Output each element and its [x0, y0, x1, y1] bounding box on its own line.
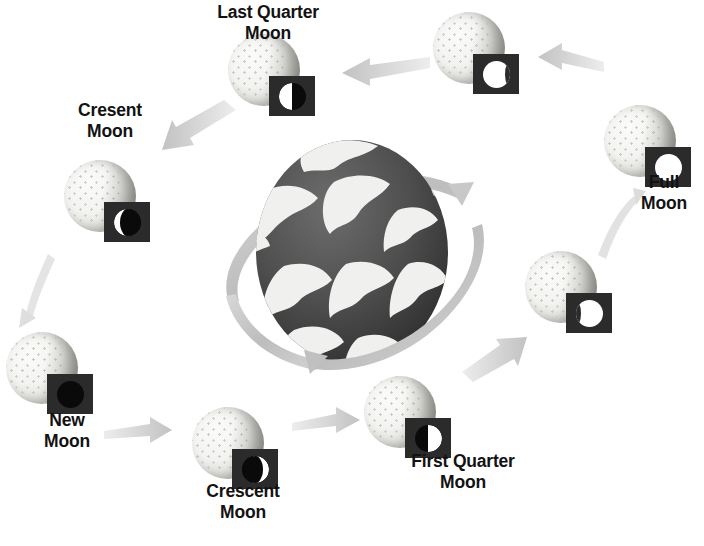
arrow-full-to-gibbous: [538, 43, 604, 72]
waning-gibbous-icon: [473, 54, 519, 94]
arrow-crescent-to-first: [292, 407, 360, 433]
phase-disc: [576, 300, 603, 327]
label-new-moon: New Moon: [0, 410, 162, 451]
phase-disc: [242, 456, 269, 483]
new-moon-icon: [47, 374, 93, 414]
phase-disc: [114, 209, 141, 236]
last-quarter-icon: [269, 76, 315, 116]
waxing-gibbous-icon: [566, 293, 612, 333]
label-first-quarter-moon: First Quarter Moon: [368, 451, 558, 492]
phase-disc: [483, 61, 510, 88]
phase-disc: [57, 381, 84, 408]
earth-globe: [212, 124, 492, 382]
waning-crescent-icon: [104, 202, 150, 242]
phase-disc: [279, 83, 306, 110]
arrow-cresent-to-new: [19, 254, 55, 328]
label-cresent-moon-waning: Cresent Moon: [15, 100, 205, 141]
phase-disc: [415, 425, 442, 452]
label-full-moon: Full Moon: [569, 172, 704, 213]
moon-phases-diagram: New MoonCrescent MoonFirst Quarter MoonF…: [0, 0, 704, 546]
arrow-gibbous-to-last: [342, 57, 430, 86]
label-crescent-moon-waxing: Crescent Moon: [148, 481, 338, 522]
label-last-quarter-moon: Last Quarter Moon: [173, 2, 363, 43]
